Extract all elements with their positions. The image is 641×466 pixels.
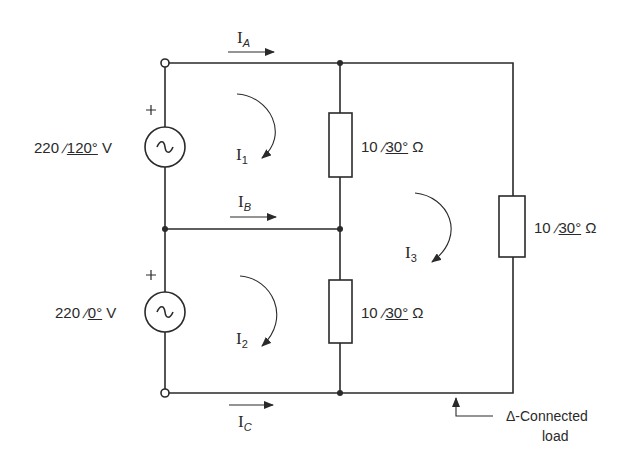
line-current-ib: IB xyxy=(238,193,251,210)
impedance-magnitude: 10 xyxy=(361,304,378,321)
source-top-unit: V xyxy=(102,139,112,156)
source-top-magnitude: 220 xyxy=(34,139,59,156)
impedance-angle: 30° xyxy=(558,219,581,236)
plus-icon xyxy=(146,270,156,280)
delta-load-label: Δ-Connected xyxy=(506,409,588,423)
current-symbol: I xyxy=(238,192,244,211)
impedance-angle: 30° xyxy=(385,304,408,321)
impedance-mid-bottom-label: 10 /30° Ω xyxy=(361,305,424,320)
impedance-magnitude: 10 xyxy=(534,219,551,236)
current-subscript: 1 xyxy=(242,154,248,166)
impedance-right-label: 10 /30° Ω xyxy=(534,220,597,235)
junction-dot xyxy=(162,226,168,232)
mesh-current-i2: I2 xyxy=(236,330,248,347)
impedance-mid-bottom xyxy=(329,280,352,343)
current-symbol: I xyxy=(237,28,243,47)
current-symbol: I xyxy=(238,412,244,431)
current-symbol: I xyxy=(236,145,242,164)
impedance-unit: Ω xyxy=(412,138,423,155)
source-bottom-label: 220 /0° V xyxy=(55,305,116,320)
source-top-label: 220 /120° V xyxy=(34,140,112,155)
impedance-right xyxy=(499,196,525,257)
current-subscript: A xyxy=(243,37,250,49)
terminal-c xyxy=(161,389,169,397)
impedance-unit: Ω xyxy=(412,304,423,321)
current-subscript: B xyxy=(244,201,251,213)
delta-load-label-2: load xyxy=(542,429,568,443)
current-subscript: 3 xyxy=(411,252,417,264)
mesh-current-i3: I3 xyxy=(405,244,417,261)
impedance-unit: Ω xyxy=(585,219,596,236)
source-top-angle: 120° xyxy=(67,139,98,156)
line-current-ic: IC xyxy=(238,413,252,430)
mesh-current-i1: I1 xyxy=(236,146,248,163)
source-bottom-magnitude: 220 xyxy=(55,304,80,321)
terminal-a xyxy=(161,59,169,67)
current-subscript: C xyxy=(244,421,252,433)
impedance-mid-top-label: 10 /30° Ω xyxy=(361,139,424,154)
delta-pointer-arrow xyxy=(456,398,493,416)
impedance-angle: 30° xyxy=(385,138,408,155)
plus-icon xyxy=(146,105,156,115)
junction-dot xyxy=(337,390,343,396)
current-symbol: I xyxy=(405,243,411,262)
impedance-mid-top xyxy=(329,113,352,177)
source-bottom-unit: V xyxy=(106,304,116,321)
line-current-ia: IA xyxy=(237,29,250,46)
mesh-arrow-3 xyxy=(415,193,451,262)
current-subscript: 2 xyxy=(242,338,248,350)
junction-dot xyxy=(337,60,343,66)
current-symbol: I xyxy=(236,329,242,348)
impedance-magnitude: 10 xyxy=(361,138,378,155)
junction-dot xyxy=(337,226,343,232)
